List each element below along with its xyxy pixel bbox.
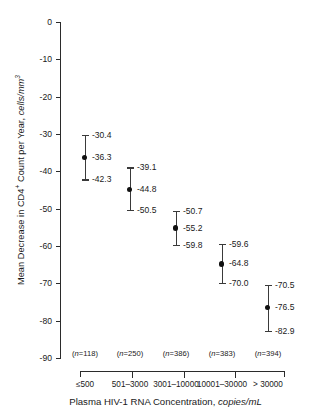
x-axis-bracket-tick bbox=[235, 372, 236, 378]
error-bar-cap-lower bbox=[265, 331, 273, 332]
ci-lower-label: -70.0 bbox=[229, 279, 248, 287]
error-bar-cap-lower bbox=[82, 179, 90, 180]
y-axis-tick-label-wrap: -70 bbox=[8, 279, 52, 287]
x-axis-bracket-tick bbox=[132, 372, 133, 378]
error-bar-cap-upper bbox=[173, 211, 181, 212]
error-bar-cap-lower bbox=[173, 245, 181, 246]
ci-upper-label: -30.4 bbox=[92, 131, 111, 139]
y-axis-tick bbox=[56, 358, 61, 359]
y-axis-tick-label: -40 bbox=[8, 167, 52, 175]
y-axis-tick-label: -20 bbox=[8, 93, 52, 101]
y-axis-tick-label-wrap: 0 bbox=[8, 18, 52, 26]
data-point-marker[interactable] bbox=[127, 187, 132, 192]
ci-upper-label: -59.6 bbox=[229, 240, 248, 248]
y-axis-tick-label: -70 bbox=[8, 279, 52, 287]
plot-area: 0-10-20-30-40-50-60-70-80-90-30.4-36.3-4… bbox=[60, 22, 300, 358]
error-bar-cap-upper bbox=[82, 135, 90, 136]
x-axis-category-label: > 30000 bbox=[233, 380, 303, 389]
y-axis-tick bbox=[56, 209, 61, 210]
y-axis-tick bbox=[56, 97, 61, 98]
data-point-label: -36.3 bbox=[92, 153, 111, 161]
y-axis-title-text-a: Mean Decrease in CD4 bbox=[16, 189, 26, 286]
y-axis-tick bbox=[56, 321, 61, 322]
y-axis-tick bbox=[56, 246, 61, 247]
error-bar-cap-lower bbox=[127, 210, 135, 211]
error-bar-cap-upper bbox=[127, 167, 135, 168]
error-bar-cap-upper bbox=[265, 285, 273, 286]
cd4-plus-superscript: + bbox=[14, 185, 21, 189]
chart-figure: Mean Decrease in CD4+ Count per Year, ce… bbox=[0, 0, 331, 416]
ci-lower-label: -59.8 bbox=[183, 241, 202, 249]
x-axis-title-text: Plasma HIV-1 RNA Concentration, bbox=[69, 396, 218, 407]
ci-lower-label: -82.9 bbox=[275, 327, 294, 335]
y-axis-tick-label-wrap: -30 bbox=[8, 130, 52, 138]
y-axis-tick-label: 0 bbox=[8, 18, 52, 26]
data-point-label: -76.5 bbox=[275, 303, 294, 311]
data-point-marker[interactable] bbox=[219, 261, 224, 266]
y-axis-tick-label: -90 bbox=[8, 354, 52, 362]
ci-lower-label: -50.5 bbox=[137, 206, 156, 214]
data-point-marker[interactable] bbox=[173, 225, 178, 230]
y-axis-tick-label-wrap: -50 bbox=[8, 205, 52, 213]
y-axis-tick-label-wrap: -40 bbox=[8, 167, 52, 175]
y-axis-tick-label-wrap: -20 bbox=[8, 93, 52, 101]
sample-size-label: (n=394) bbox=[238, 350, 298, 358]
x-axis-bracket-tick bbox=[184, 372, 185, 378]
data-point-label: -55.2 bbox=[183, 224, 202, 232]
error-bar-cap-upper bbox=[219, 244, 227, 245]
y-axis-tick-label: -50 bbox=[8, 205, 52, 213]
y-axis-tick-label-wrap: -90 bbox=[8, 354, 52, 362]
y-axis-tick bbox=[56, 171, 61, 172]
x-axis-bracket bbox=[80, 371, 285, 377]
error-bar-cap-lower bbox=[219, 283, 227, 284]
y-axis-tick bbox=[56, 59, 61, 60]
data-point-label: -44.8 bbox=[137, 185, 156, 193]
ci-upper-label: -50.7 bbox=[183, 207, 202, 215]
x-axis-unit: copies/mL bbox=[218, 396, 262, 407]
y-axis-tick bbox=[56, 283, 61, 284]
y-axis-tick-label-wrap: -60 bbox=[8, 242, 52, 250]
y-axis-tick-label: -10 bbox=[8, 55, 52, 63]
ci-upper-label: -39.1 bbox=[137, 163, 156, 171]
y-axis-tick-label: -60 bbox=[8, 242, 52, 250]
ci-lower-label: -42.3 bbox=[92, 175, 111, 183]
y-axis-tick-label-wrap: -10 bbox=[8, 55, 52, 63]
x-axis-title: Plasma HIV-1 RNA Concentration, copies/m… bbox=[0, 396, 331, 407]
y-axis-tick bbox=[56, 22, 61, 23]
y-axis-tick bbox=[56, 134, 61, 135]
y-axis-unit-superscript: 3 bbox=[14, 75, 21, 79]
data-point-label: -64.8 bbox=[229, 259, 248, 267]
data-point-marker[interactable] bbox=[82, 155, 87, 160]
y-axis-tick-label: -80 bbox=[8, 317, 52, 325]
y-axis-tick-label-wrap: -80 bbox=[8, 317, 52, 325]
ci-upper-label: -70.5 bbox=[275, 281, 294, 289]
y-axis-tick-label: -30 bbox=[8, 130, 52, 138]
y-axis-line bbox=[60, 22, 61, 358]
data-point-marker[interactable] bbox=[265, 305, 270, 310]
